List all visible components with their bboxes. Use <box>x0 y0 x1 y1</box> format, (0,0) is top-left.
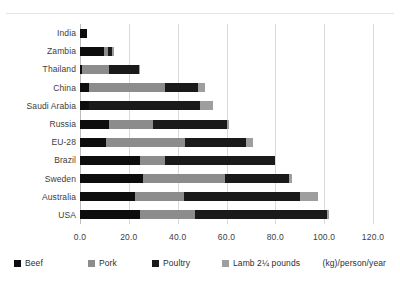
bar-segment <box>165 83 198 92</box>
bar-segment <box>89 101 200 110</box>
bar-segment <box>200 101 213 110</box>
legend-swatch-icon <box>14 260 21 267</box>
bar-segment <box>80 156 140 165</box>
bar-segment <box>139 65 140 74</box>
x-tick-label: 0.0 <box>60 232 100 242</box>
legend-label: Beef <box>25 258 43 268</box>
plot-area <box>80 24 373 224</box>
bar-segment <box>80 101 89 110</box>
chart-page: IndiaZambiaThailandChinaSaudi ArabiaRuss… <box>0 0 400 284</box>
legend-swatch-icon <box>88 260 95 267</box>
legend-item[interactable]: Pork <box>88 258 117 268</box>
category-label: India <box>2 28 76 38</box>
bar-segment <box>80 29 87 38</box>
legend-label: Pork <box>99 258 117 268</box>
bar-segment <box>109 120 153 129</box>
units-label: (kg)/person/year <box>323 258 387 268</box>
bar-segment <box>185 138 246 147</box>
bar-segment <box>140 156 166 165</box>
category-label: USA <box>2 210 76 220</box>
bar-row <box>80 65 373 74</box>
legend-item[interactable]: Lamb 2¼ pounds <box>222 258 300 268</box>
bar-segment <box>143 174 225 183</box>
bar-row <box>80 120 373 129</box>
bar-row <box>80 174 373 183</box>
bar-segment <box>300 192 318 201</box>
legend-item[interactable]: Beef <box>14 258 43 268</box>
stacked-bar-chart: IndiaZambiaThailandChinaSaudi ArabiaRuss… <box>0 18 400 230</box>
bar-row <box>80 138 373 147</box>
category-label: China <box>2 83 76 93</box>
bar-segment <box>289 174 293 183</box>
bar-segment <box>153 120 226 129</box>
category-label: Saudi Arabia <box>2 101 76 111</box>
bar-segment <box>82 65 109 74</box>
bar-segment <box>246 138 253 147</box>
category-label: Zambia <box>2 46 76 56</box>
bar-row <box>80 29 373 38</box>
bar-row <box>80 101 373 110</box>
bar-segment <box>195 210 327 219</box>
legend-label: Lamb 2¼ pounds <box>233 258 300 268</box>
bar-segment <box>184 192 300 201</box>
x-tick-label: 100.0 <box>304 232 344 242</box>
bar-segment <box>198 83 204 92</box>
gridline-120.0 <box>373 24 374 224</box>
category-axis-labels: IndiaZambiaThailandChinaSaudi ArabiaRuss… <box>0 24 76 224</box>
bar-segment <box>165 156 275 165</box>
bar-segment <box>135 192 184 201</box>
x-tick-label: 20.0 <box>109 232 149 242</box>
bar-row <box>80 83 373 92</box>
bar-segment <box>89 83 166 92</box>
bar-segment <box>80 210 140 219</box>
value-axis-labels: 0.020.040.060.080.0100.0120.0 <box>0 232 400 246</box>
bar-segment <box>109 65 138 74</box>
legend-swatch-icon <box>152 260 159 267</box>
bar-segment <box>80 83 89 92</box>
bar-segment <box>80 192 135 201</box>
bar-segment <box>106 138 185 147</box>
category-label: Australia <box>2 192 76 202</box>
top-divider <box>6 13 394 14</box>
x-tick-label: 80.0 <box>255 232 295 242</box>
legend-item[interactable]: Poultry <box>152 258 190 268</box>
bar-row <box>80 47 373 56</box>
category-label: Thailand <box>2 64 76 74</box>
bar-segment <box>112 47 113 56</box>
legend-label: Poultry <box>163 258 190 268</box>
bar-segment <box>327 210 329 219</box>
legend-swatch-icon <box>222 260 229 267</box>
bar-segment <box>80 120 109 129</box>
bar-segment <box>80 174 143 183</box>
bar-row <box>80 192 373 201</box>
bar-segment <box>80 47 104 56</box>
category-label: Brazil <box>2 155 76 165</box>
x-tick-label: 60.0 <box>207 232 247 242</box>
chart-legend: BeefPorkPoultryLamb 2¼ pounds (kg)/perso… <box>0 258 400 274</box>
bar-segment <box>80 138 106 147</box>
category-label: EU-28 <box>2 137 76 147</box>
bar-segment <box>140 210 195 219</box>
category-label: Sweden <box>2 174 76 184</box>
bar-row <box>80 210 373 219</box>
x-tick-label: 120.0 <box>353 232 393 242</box>
bar-segment <box>227 120 229 129</box>
bar-segment <box>225 174 288 183</box>
bar-row <box>80 156 373 165</box>
category-label: Russia <box>2 119 76 129</box>
x-tick-label: 40.0 <box>158 232 198 242</box>
